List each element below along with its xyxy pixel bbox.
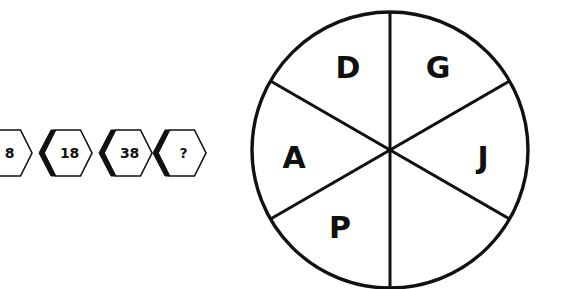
hexagon-cell[interactable]: 8 bbox=[0, 128, 34, 178]
hexagon-value: 18 bbox=[42, 128, 94, 178]
puzzle-screenshot: 8 18 38 ? bbox=[0, 0, 567, 289]
hexagon-cell-answer[interactable]: ? bbox=[156, 128, 208, 178]
sector-label-left: A bbox=[282, 143, 305, 173]
hexagon-cell[interactable]: 18 bbox=[42, 128, 94, 178]
sector-label-right: J bbox=[477, 143, 488, 173]
hexagon-value: 8 bbox=[0, 128, 34, 178]
hexagon-value: 38 bbox=[102, 128, 154, 178]
hexagon-cell[interactable]: 38 bbox=[102, 128, 154, 178]
sector-label-top-right: G bbox=[426, 53, 451, 83]
hexagon-value: ? bbox=[156, 128, 208, 178]
hexagon-sequence: 8 18 38 ? bbox=[0, 128, 215, 180]
sector-label-top-left: D bbox=[336, 53, 361, 83]
sector-wheel: D G A J P bbox=[245, 0, 545, 289]
sector-label-bottom-left: P bbox=[329, 213, 351, 243]
